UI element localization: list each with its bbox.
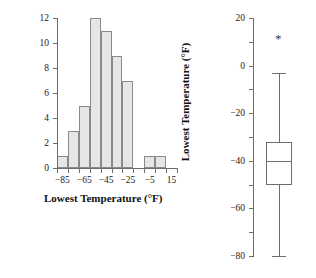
boxplot-box bbox=[266, 142, 292, 185]
histogram-y-tick-label: 2 bbox=[33, 138, 49, 148]
histogram-x-tick bbox=[133, 169, 134, 173]
boxplot-cap-upper bbox=[272, 73, 286, 74]
histogram-bar bbox=[101, 31, 112, 169]
histogram-x-tick bbox=[155, 169, 156, 173]
histogram-bar bbox=[90, 18, 101, 168]
boxplot-outlier-marker: * bbox=[275, 35, 282, 43]
histogram-y-tick bbox=[53, 68, 57, 69]
histogram-y-tick-label: 12 bbox=[33, 13, 49, 23]
boxplot-cap-lower bbox=[272, 256, 286, 257]
histogram-x-tick bbox=[68, 169, 69, 173]
histogram-y-tick-label: 0 bbox=[33, 163, 49, 173]
boxplot-panel: * 200−20−40−60−80 Lowest Temperature (°F… bbox=[190, 0, 316, 278]
boxplot-y-tick bbox=[249, 161, 253, 162]
boxplot-y-tick bbox=[249, 232, 253, 233]
boxplot-whisker-lower bbox=[279, 185, 280, 256]
boxplot-y-tick bbox=[249, 185, 253, 186]
histogram-y-axis bbox=[57, 18, 58, 169]
histogram-x-tick bbox=[57, 169, 58, 173]
boxplot-y-tick bbox=[249, 66, 253, 67]
histogram-x-tick bbox=[90, 169, 91, 173]
boxplot-y-tick-label: 20 bbox=[225, 13, 245, 23]
boxplot-median-line bbox=[266, 161, 292, 162]
boxplot-plot-area: * bbox=[253, 18, 305, 256]
histogram-x-tick bbox=[166, 169, 167, 173]
histogram-plot-area bbox=[57, 18, 177, 168]
boxplot-y-tick-label: −80 bbox=[225, 251, 245, 261]
histogram-y-tick bbox=[53, 93, 57, 94]
histogram-y-tick-label: 6 bbox=[33, 88, 49, 98]
histogram-bar bbox=[144, 156, 155, 169]
histogram-x-tick bbox=[177, 169, 178, 173]
histogram-bar bbox=[155, 156, 166, 169]
histogram-x-tick bbox=[79, 169, 80, 173]
boxplot-y-tick bbox=[249, 208, 253, 209]
histogram-y-tick-label: 8 bbox=[33, 63, 49, 73]
boxplot-y-tick-label: −60 bbox=[225, 203, 245, 213]
histogram-y-tick bbox=[53, 118, 57, 119]
histogram-y-tick-label: 4 bbox=[33, 113, 49, 123]
histogram-x-tick bbox=[101, 169, 102, 173]
boxplot-y-tick bbox=[249, 42, 253, 43]
boxplot-y-axis-label: Lowest Temperature (°F) bbox=[179, 43, 191, 161]
histogram-y-tick bbox=[53, 18, 57, 19]
histogram-y-tick-label: 10 bbox=[33, 38, 49, 48]
boxplot-y-tick bbox=[249, 256, 253, 257]
boxplot-y-tick bbox=[249, 18, 253, 19]
statistics-figure: 024681012 −85−65−45−25−515 Frequency Low… bbox=[0, 0, 316, 278]
histogram-x-tick bbox=[144, 169, 145, 173]
histogram-x-tick bbox=[122, 169, 123, 173]
boxplot-y-tick-label: −20 bbox=[225, 108, 245, 118]
boxplot-y-tick-label: 0 bbox=[225, 61, 245, 71]
histogram-x-tick-label: 15 bbox=[158, 175, 186, 185]
boxplot-y-tick bbox=[249, 137, 253, 138]
histogram-y-tick bbox=[53, 43, 57, 44]
histogram-bar bbox=[122, 81, 133, 169]
histogram-y-tick bbox=[53, 143, 57, 144]
histogram-bar bbox=[57, 156, 68, 169]
histogram-bar bbox=[112, 56, 123, 169]
histogram-x-axis-label: Lowest Temperature (°F) bbox=[44, 192, 162, 204]
histogram-bar bbox=[68, 131, 79, 169]
boxplot-y-tick-label: −40 bbox=[225, 156, 245, 166]
boxplot-y-axis bbox=[253, 18, 254, 257]
histogram-panel: 024681012 −85−65−45−25−515 Frequency Low… bbox=[0, 0, 190, 278]
histogram-x-axis bbox=[57, 168, 178, 169]
boxplot-whisker-upper bbox=[279, 73, 280, 142]
boxplot-y-tick bbox=[249, 113, 253, 114]
histogram-x-tick bbox=[112, 169, 113, 173]
histogram-bar bbox=[79, 106, 90, 169]
boxplot-y-tick bbox=[249, 89, 253, 90]
